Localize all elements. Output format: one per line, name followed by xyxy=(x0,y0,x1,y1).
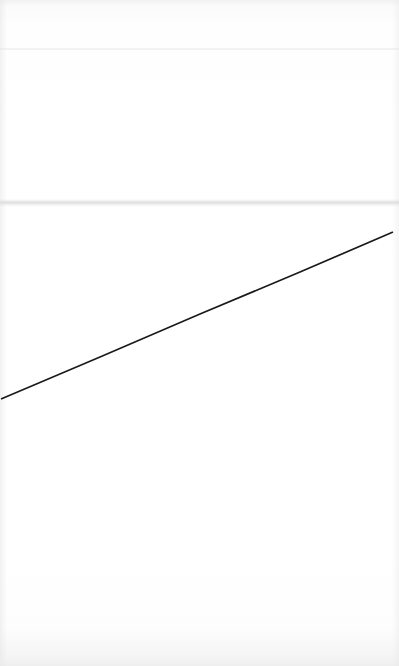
diagonal-line-figure xyxy=(0,0,399,666)
scanned-page xyxy=(0,0,399,666)
figure-layer xyxy=(0,0,399,666)
diagonal-line xyxy=(1,232,393,399)
